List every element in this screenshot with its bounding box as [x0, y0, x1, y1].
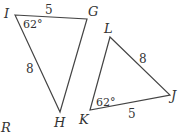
vertex-label-h: H [53, 115, 66, 130]
angle-label-i: 62° [23, 18, 43, 31]
stray-label-r: R [0, 120, 11, 135]
angle-label-k: 62° [96, 96, 116, 109]
side-label-kj: 5 [128, 107, 136, 121]
side-label-lj: 8 [139, 52, 147, 66]
vertex-label-g: G [88, 4, 98, 19]
side-label-ig: 5 [45, 3, 53, 17]
side-label-ih: 8 [26, 62, 34, 76]
vertex-label-l: L [103, 21, 113, 36]
congruence-diagram: I G H 5 8 62° L J K 8 5 62° R [0, 0, 180, 136]
vertex-label-k: K [78, 112, 90, 127]
vertex-label-i: I [3, 6, 10, 21]
